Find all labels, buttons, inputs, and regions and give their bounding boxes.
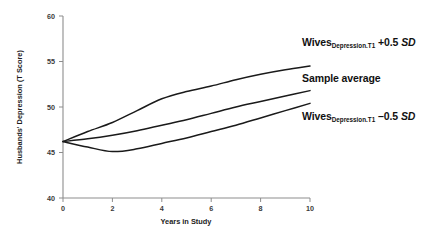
- y-tick-label: 40: [47, 194, 55, 203]
- x-axis-ticks: [63, 198, 310, 202]
- annotation-average-series: Sample average: [302, 72, 381, 84]
- x-tick-label: 8: [259, 204, 263, 213]
- series-annotations: WivesDepression.T1 +0.5 SD Sample averag…: [302, 0, 431, 243]
- x-tick-label: 6: [209, 204, 213, 213]
- series-line-average: [63, 91, 310, 142]
- annotation-lower-value: –0.5: [378, 110, 398, 122]
- annotation-upper-series: WivesDepression.T1 +0.5 SD: [302, 36, 416, 49]
- x-axis-tick-labels: 0 2 4 6 8 10: [61, 204, 314, 213]
- annotation-average-base: Sample average: [302, 72, 381, 84]
- annotation-lower-unit: SD: [401, 110, 415, 122]
- annotation-lower-subscript: Depression.T1: [332, 116, 375, 123]
- x-tick-label: 0: [61, 204, 65, 213]
- y-tick-label: 60: [47, 12, 55, 21]
- annotation-upper-unit: SD: [401, 36, 415, 48]
- annotation-lower-base: Wives: [302, 110, 332, 122]
- y-axis-ticks: [59, 16, 63, 198]
- y-tick-label: 55: [47, 57, 55, 66]
- series-group: [63, 66, 310, 152]
- y-tick-label: 45: [47, 148, 55, 157]
- y-tick-label: 50: [47, 103, 55, 112]
- annotation-upper-subscript: Depression.T1: [332, 42, 375, 49]
- y-axis-tick-labels: 60 55 50 45 40: [47, 12, 55, 203]
- x-tick-label: 4: [160, 204, 164, 213]
- annotation-upper-base: Wives: [302, 36, 332, 48]
- y-axis-title: Husbands' Depression (T Score): [15, 50, 24, 164]
- annotation-lower-series: WivesDepression.T1 –0.5 SD: [302, 110, 415, 123]
- x-tick-label: 2: [110, 204, 114, 213]
- chart-figure: 60 55 50 45 40 0 2 4 6 8 10 Years in Stu…: [0, 0, 431, 243]
- annotation-upper-value: +0.5: [378, 36, 398, 48]
- series-line-upper: [63, 66, 310, 142]
- x-axis-title: Years in Study: [161, 217, 213, 226]
